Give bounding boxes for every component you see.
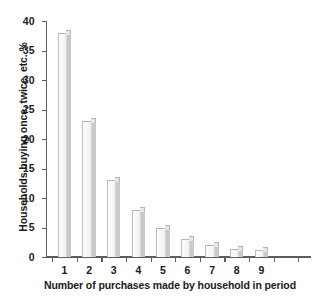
x-axis-tick-label: 1 (52, 264, 78, 277)
bar (255, 250, 269, 257)
x-axis-tick-label: 7 (199, 264, 225, 277)
y-axis-tick: 35 (42, 51, 47, 52)
y-axis-tick-label: 0 (29, 251, 35, 264)
bar-chart-figure: Households buying once, twice, etc. % Nu… (0, 0, 320, 306)
bar-side-shading (66, 34, 71, 257)
y-axis-tick-label: 10 (23, 192, 35, 205)
bar-top-cap (263, 247, 268, 252)
x-axis-tick-label: 5 (150, 264, 176, 277)
x-axis-tick (298, 257, 299, 262)
bar-side-shading (115, 181, 120, 257)
y-axis-tick-label: 5 (29, 221, 35, 234)
y-axis-tick: 25 (42, 110, 47, 111)
x-axis-tick-label: 9 (248, 264, 274, 277)
x-axis-tick-label: 2 (76, 264, 102, 277)
y-axis-tick: 0 (42, 257, 47, 258)
bar-top-cap (91, 118, 96, 123)
bar (230, 249, 244, 257)
bar-top-cap (189, 236, 194, 241)
x-axis-tick (77, 257, 78, 262)
bar-side-shading (214, 246, 219, 257)
y-axis-tick-label: 35 (23, 44, 35, 57)
y-axis-tick: 40 (42, 21, 47, 22)
x-axis-tick-label: 8 (224, 264, 250, 277)
bar (156, 228, 170, 258)
bar-top-cap (165, 225, 170, 230)
x-axis-tick (200, 257, 201, 262)
bar (107, 180, 121, 257)
bar-top-cap (66, 30, 71, 35)
x-axis-tick-label: 3 (101, 264, 127, 277)
bar-side-shading (91, 122, 96, 257)
bar-top-cap (115, 177, 120, 182)
bar-side-shading (238, 250, 243, 257)
y-axis-tick-label: 40 (23, 15, 35, 28)
y-axis-tick: 20 (42, 139, 47, 140)
plot-area: 0510152025303540 123456789 (46, 18, 313, 261)
bar-top-cap (140, 207, 145, 212)
bar (181, 239, 195, 257)
bar (82, 121, 96, 257)
x-axis-tick (274, 257, 275, 262)
bar-side-shading (189, 240, 194, 257)
x-axis-tick (249, 257, 250, 262)
y-axis-tick: 10 (42, 198, 47, 199)
x-axis-tick (126, 257, 127, 262)
y-axis-tick: 15 (42, 169, 47, 170)
y-axis-tick-label: 15 (23, 162, 35, 175)
x-axis-tick-label: 6 (175, 264, 201, 277)
bar (205, 245, 219, 257)
y-axis-tick-label: 25 (23, 103, 35, 116)
bar-side-shading (165, 229, 170, 258)
y-axis-tick: 5 (42, 228, 47, 229)
x-axis-tick (52, 257, 53, 262)
x-axis-tick (151, 257, 152, 262)
bar-top-cap (238, 246, 243, 251)
x-axis-tick (175, 257, 176, 262)
y-axis-tick-label: 20 (23, 133, 35, 146)
y-axis-tick: 30 (42, 80, 47, 81)
x-axis-tick (224, 257, 225, 262)
bar (132, 210, 146, 257)
bar-top-cap (214, 242, 219, 247)
y-axis-tick-label: 30 (23, 74, 35, 87)
x-axis-title: Number of purchases made by household in… (22, 279, 318, 291)
x-axis-tick (101, 257, 102, 262)
bar-side-shading (140, 211, 145, 257)
x-axis-tick-label: 4 (125, 264, 151, 277)
bar (58, 33, 72, 257)
